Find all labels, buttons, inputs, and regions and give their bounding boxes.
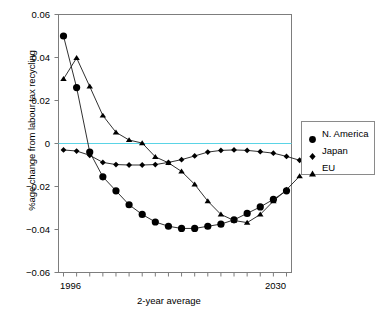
legend-item-japan[interactable]: Japan	[308, 144, 348, 158]
series-eu	[60, 55, 303, 225]
data-point-marker	[204, 223, 211, 230]
data-point-marker	[126, 137, 132, 142]
legend-label-japan: Japan	[322, 146, 348, 156]
legend: N. America Japan EU	[301, 121, 375, 175]
data-point-marker	[139, 162, 145, 168]
data-point-marker	[60, 32, 67, 39]
data-point-marker	[60, 76, 66, 81]
data-point-marker	[73, 84, 80, 91]
data-point-marker	[257, 203, 264, 210]
data-point-marker	[139, 211, 146, 218]
data-point-marker	[217, 221, 224, 228]
data-point-marker	[179, 157, 185, 163]
data-point-marker	[192, 153, 198, 159]
legend-item-n-america[interactable]: N. America	[308, 127, 368, 141]
data-point-marker	[74, 148, 80, 154]
data-point-marker	[100, 113, 106, 118]
triangle-marker-icon	[308, 164, 317, 173]
data-point-marker	[191, 225, 198, 232]
data-point-marker	[178, 225, 185, 232]
data-point-marker	[100, 160, 106, 166]
data-point-marker	[284, 154, 290, 160]
data-point-marker	[125, 201, 132, 208]
data-point-marker	[178, 169, 184, 174]
data-point-marker	[244, 147, 250, 153]
data-point-marker	[231, 147, 237, 153]
data-point-marker	[165, 223, 172, 230]
data-point-marker	[218, 147, 224, 153]
data-point-marker	[244, 210, 251, 217]
data-point-marker	[61, 147, 67, 153]
data-point-marker	[152, 218, 159, 225]
x-axis-tick-label-last: 2030	[265, 281, 286, 291]
data-point-marker	[99, 173, 106, 180]
data-point-marker	[270, 150, 276, 156]
data-point-marker	[152, 162, 158, 168]
legend-item-eu[interactable]: EU	[308, 161, 335, 175]
x-axis-title: 2-year average	[137, 295, 201, 306]
series-n-america	[60, 32, 290, 232]
series-line	[64, 36, 287, 228]
chart-figure: %age change from labour tax recycling 0.…	[0, 0, 380, 318]
series-line	[64, 58, 300, 223]
data-point-marker	[113, 162, 119, 168]
circle-marker-icon	[308, 130, 317, 139]
data-point-marker	[126, 162, 132, 168]
data-point-marker	[112, 187, 119, 194]
diamond-marker-icon	[308, 147, 317, 156]
data-point-marker	[205, 149, 211, 155]
data-point-marker	[257, 149, 263, 155]
legend-label-n-america: N. America	[322, 129, 368, 139]
data-point-marker	[87, 84, 93, 89]
data-point-marker	[73, 55, 79, 60]
legend-label-eu: EU	[322, 163, 335, 173]
x-axis-tick-label-first: 1996	[60, 281, 81, 291]
